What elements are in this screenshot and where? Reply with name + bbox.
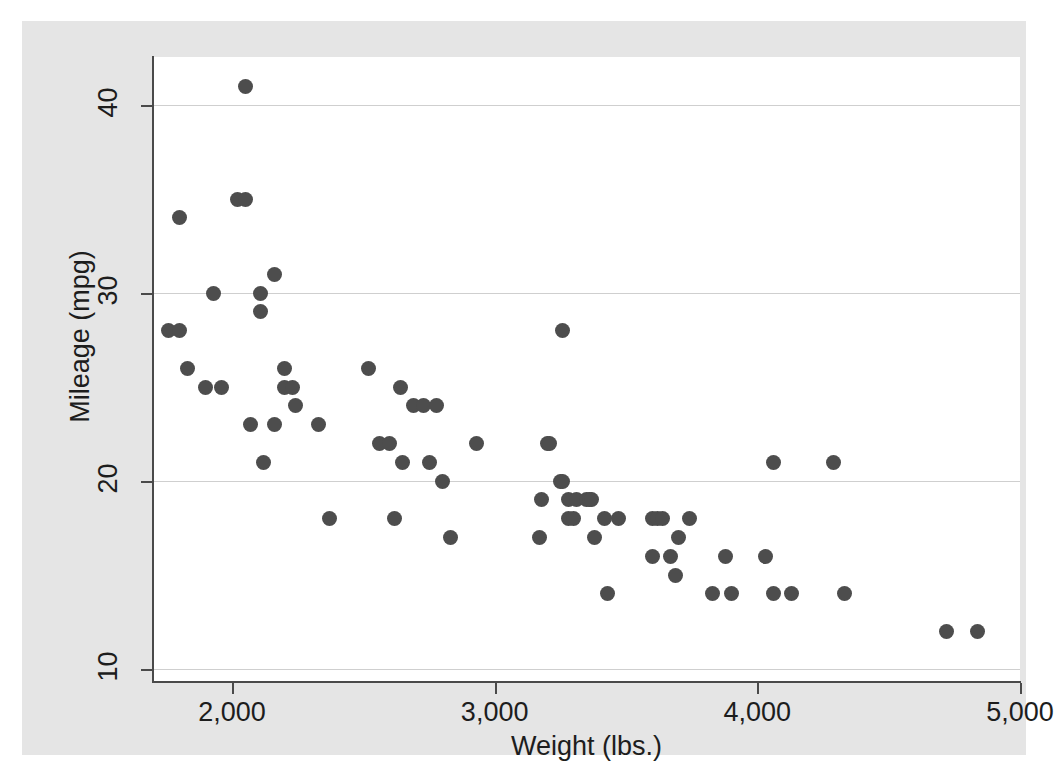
scatter-point (422, 455, 437, 470)
scatter-point (393, 380, 408, 395)
scatter-point (180, 361, 195, 376)
scatter-point (939, 624, 954, 639)
scatter-point (285, 380, 300, 395)
scatter-point (671, 530, 686, 545)
scatter-point (469, 436, 484, 451)
scatter-point (555, 323, 570, 338)
x-tick-label-4000: 4,000 (687, 697, 827, 728)
x-tick-label-2000: 2,000 (162, 697, 302, 728)
scatter-point (382, 436, 397, 451)
scatter-point (566, 511, 581, 526)
scatter-point (256, 455, 271, 470)
scatter-point (198, 380, 213, 395)
scatter-point (542, 436, 557, 451)
y-axis-title: Mileage (mpg) (65, 227, 96, 447)
scatter-point (584, 492, 599, 507)
scatter-point (172, 323, 187, 338)
y-tick-mark-30 (141, 293, 152, 295)
y-tick-mark-20 (141, 481, 152, 483)
y-tick-label-10: 10 (93, 637, 124, 697)
scatter-point (682, 511, 697, 526)
gridline-y-40 (153, 105, 1020, 106)
scatter-point (611, 511, 626, 526)
scatter-point (555, 474, 570, 489)
scatter-point (970, 624, 985, 639)
scatter-point (718, 549, 733, 564)
scatter-point (253, 286, 268, 301)
scatter-point (206, 286, 221, 301)
scatter-point (826, 455, 841, 470)
scatter-point (288, 398, 303, 413)
y-tick-label-30: 30 (93, 261, 124, 321)
gridline-y-30 (153, 293, 1020, 294)
x-tick-mark-2000 (232, 683, 234, 694)
x-axis-title: Weight (lbs.) (153, 731, 1020, 762)
scatter-point (361, 361, 376, 376)
scatter-point (766, 586, 781, 601)
scatter-point (600, 586, 615, 601)
scatter-point (267, 417, 282, 432)
scatter-point (724, 586, 739, 601)
scatter-point (277, 361, 292, 376)
y-tick-mark-40 (141, 105, 152, 107)
gridline-y-20 (153, 481, 1020, 482)
graph-canvas: 10203040 2,0003,0004,0005,000 Mileage (m… (22, 21, 1026, 755)
scatter-point (395, 455, 410, 470)
scatter-point (837, 586, 852, 601)
scatter-point (587, 530, 602, 545)
scatter-point (429, 398, 444, 413)
scatter-point (172, 210, 187, 225)
y-tick-label-20: 20 (93, 449, 124, 509)
y-tick-label-40: 40 (93, 73, 124, 133)
scatter-point (532, 530, 547, 545)
scatter-point (663, 549, 678, 564)
scatter-point (243, 417, 258, 432)
scatter-point (534, 492, 549, 507)
scatter-point (645, 549, 660, 564)
scatter-point (668, 568, 683, 583)
scatter-point (435, 474, 450, 489)
scatter-point (214, 380, 229, 395)
scatter-point (705, 586, 720, 601)
x-tick-mark-5000 (1020, 683, 1022, 694)
scatter-point (443, 530, 458, 545)
scatter-point (238, 79, 253, 94)
scatter-point (267, 267, 282, 282)
scatter-point (387, 511, 402, 526)
scatter-point (322, 511, 337, 526)
gridline-y-10 (153, 669, 1020, 670)
x-tick-label-5000: 5,000 (950, 697, 1058, 728)
scatter-point (766, 455, 781, 470)
y-axis-line (152, 56, 154, 683)
scatter-point (238, 192, 253, 207)
x-tick-mark-3000 (495, 683, 497, 694)
scatter-point (311, 417, 326, 432)
scatter-point (253, 304, 268, 319)
scatter-point (655, 511, 670, 526)
x-axis-line (152, 681, 1021, 683)
x-tick-mark-4000 (757, 683, 759, 694)
scatter-point (758, 549, 773, 564)
x-tick-label-3000: 3,000 (425, 697, 565, 728)
y-tick-mark-10 (141, 669, 152, 671)
plot-region (153, 57, 1020, 682)
scatter-point (784, 586, 799, 601)
